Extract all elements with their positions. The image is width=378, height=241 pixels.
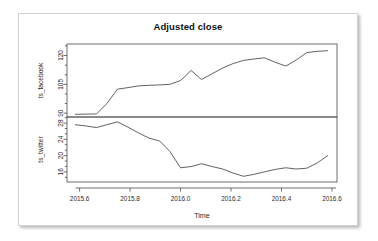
series-line-ts-twitter (75, 122, 327, 176)
x-tick-label: 2015.6 (70, 195, 90, 202)
x-tick-label: 2016.6 (322, 195, 342, 202)
panel-ts-twitter: 16202428 ts_twitter (37, 117, 337, 182)
plot-root: Adjusted close 90105120 ts_facebook 1620… (19, 14, 357, 225)
panel-ts-facebook: 90105120 ts_facebook (37, 44, 337, 117)
y-tick-label: 24 (57, 135, 64, 143)
series-line-ts-facebook (75, 51, 327, 115)
y-tick-label: 105 (57, 79, 64, 90)
x-tick-label: 2016.0 (171, 195, 191, 202)
y-axis-tick-labels-twitter: 16202428 (57, 119, 64, 175)
x-tick-label: 2015.8 (120, 195, 140, 202)
x-axis-tick-labels: 2015.62015.82016.02016.22016.42016.6 (70, 195, 342, 202)
y-tick-label: 120 (57, 50, 64, 61)
y-tick-label: 20 (57, 152, 64, 160)
figure-card: Adjusted close 90105120 ts_facebook 1620… (18, 13, 358, 226)
y-axis-title-twitter: ts_twitter (37, 136, 45, 163)
panel-frame-facebook (67, 44, 337, 117)
time-series-chart: 90105120 ts_facebook 16202428 ts_twitter… (19, 14, 359, 227)
x-tick-label: 2016.2 (221, 195, 241, 202)
y-tick-label: 16 (57, 168, 64, 176)
y-tick-label: 90 (57, 109, 64, 117)
panel-frame-twitter (67, 117, 337, 182)
y-axis-title-facebook: ts_facebook (37, 62, 45, 98)
y-axis-tick-labels-facebook: 90105120 (57, 50, 64, 117)
x-axis-ticks (80, 188, 332, 192)
y-tick-label: 28 (57, 119, 64, 127)
x-axis-title: Time (194, 211, 210, 220)
x-axis: 2015.62015.82016.02016.22016.42016.6 Tim… (70, 188, 342, 220)
y-axis-ticks-twitter (64, 118, 68, 178)
x-tick-label: 2016.4 (272, 195, 292, 202)
y-axis-ticks-facebook (64, 46, 68, 113)
